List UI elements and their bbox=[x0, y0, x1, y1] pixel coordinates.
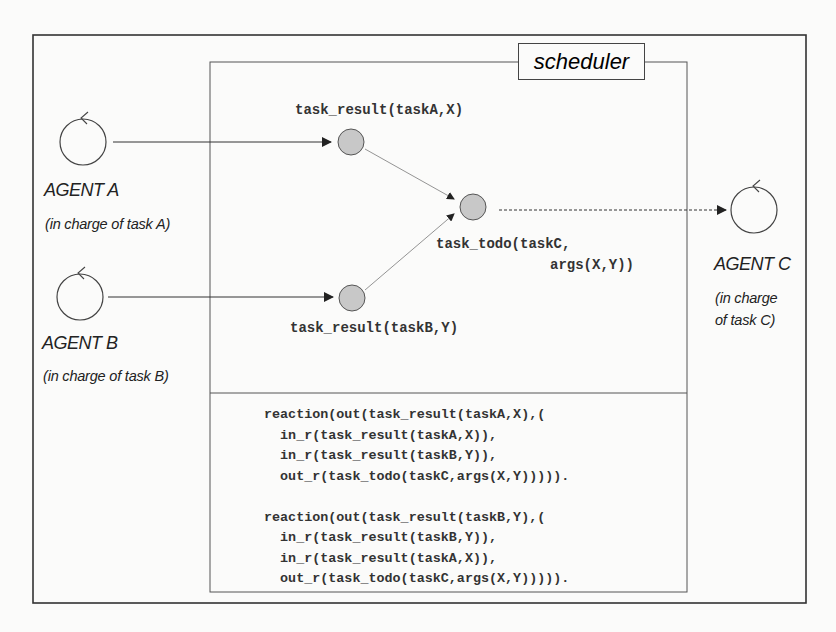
agent-c-description-line2: of task C) bbox=[715, 309, 775, 331]
arrow-result-a-to-todo bbox=[365, 149, 454, 199]
agent-a-description: (in charge of task A) bbox=[45, 213, 170, 235]
agent-b-icon bbox=[57, 267, 103, 320]
agent-a-name: AGENT A bbox=[44, 180, 119, 201]
agent-c-icon bbox=[731, 180, 777, 233]
reaction-line: out_r(task_todo(taskC,args(X,Y))))). bbox=[264, 467, 569, 488]
agent-c-description-line1: (in charge bbox=[715, 287, 777, 309]
task-result-b-label: task_result(taskB,Y) bbox=[290, 320, 458, 336]
agent-b-description: (in charge of task B) bbox=[43, 365, 169, 387]
arrow-result-b-to-todo bbox=[365, 214, 454, 290]
reaction-line: reaction(out(task_result(taskB,Y),( bbox=[264, 508, 569, 529]
reaction-line: out_r(task_todo(taskC,args(X,Y))))). bbox=[264, 569, 569, 590]
agent-b-name: AGENT B bbox=[42, 333, 118, 354]
node-task-result-a bbox=[338, 129, 364, 155]
reaction-line: in_r(task_result(taskB,Y)), bbox=[264, 528, 569, 549]
node-task-result-b bbox=[339, 285, 365, 311]
agent-a-icon bbox=[60, 112, 106, 165]
task-todo-label-line1: task_todo(taskC, bbox=[436, 236, 570, 252]
reaction-line: in_r(task_result(taskA,X)), bbox=[264, 426, 569, 447]
reaction-line: reaction(out(task_result(taskA,X),( bbox=[264, 405, 569, 426]
scheduler-title: scheduler bbox=[518, 43, 645, 80]
node-task-todo bbox=[460, 194, 486, 220]
task-todo-label-line2: args(X,Y)) bbox=[550, 257, 634, 273]
task-result-a-label: task_result(taskA,X) bbox=[295, 102, 463, 118]
agent-c-name: AGENT C bbox=[714, 254, 791, 275]
reaction-line: in_r(task_result(taskB,Y)), bbox=[264, 446, 569, 467]
reaction-line: in_r(task_result(taskA,X)), bbox=[264, 549, 569, 570]
reactions-code: reaction(out(task_result(taskA,X),( in_r… bbox=[264, 405, 569, 590]
reaction-spacer bbox=[264, 487, 569, 508]
